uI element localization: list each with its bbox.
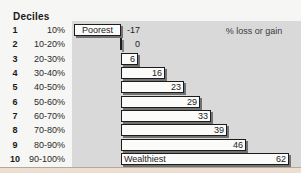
bar: 6 — [121, 53, 138, 65]
decile-range-label: 90-100% — [25, 154, 65, 165]
page-edge-strip — [0, 167, 301, 173]
decile-range-label: 70-80% — [25, 125, 65, 136]
bar-value-label: 23 — [171, 82, 181, 92]
bar: 33 — [121, 110, 211, 122]
chart-panel: % loss or gain Poorest-1706162329333946W… — [72, 21, 301, 167]
bar-value-label-outside: 0 — [116, 38, 140, 50]
bar-value-label-outside: -17 — [116, 24, 140, 36]
bar-category-text: Wealthiest — [124, 154, 166, 164]
bar-value-label: 6 — [130, 54, 135, 64]
decile-range-label: 30-40% — [25, 68, 65, 79]
decile-range-label: 20-30% — [25, 54, 65, 65]
bar-value-label: 33 — [198, 111, 208, 121]
bar-value-label: 29 — [187, 97, 197, 107]
decile-number: 5 — [7, 82, 23, 93]
bar-value-label: 62 — [276, 154, 286, 164]
value-axis-label: % loss or gain — [212, 26, 296, 36]
decile-range-label: 80-90% — [25, 140, 65, 151]
bar-value-label: 46 — [233, 140, 243, 150]
decile-number: 9 — [7, 140, 23, 151]
decile-range-label: 10% — [25, 25, 65, 36]
bar: 29 — [121, 96, 200, 108]
bar-value-label: 39 — [214, 125, 224, 135]
bar-value-label: 16 — [152, 68, 162, 78]
decile-number: 7 — [7, 111, 23, 122]
bar: Wealthiest62 — [121, 153, 289, 165]
bar: 23 — [121, 81, 184, 93]
decile-range-label: 60-70% — [25, 111, 65, 122]
bar: 39 — [121, 124, 227, 136]
decile-number: 1 — [7, 25, 23, 36]
decile-number: 4 — [7, 68, 23, 79]
chart-title: Deciles — [13, 11, 49, 22]
decile-number: 8 — [7, 125, 23, 136]
bar-negative: Poorest — [74, 24, 121, 36]
decile-range-label: 40-50% — [25, 82, 65, 93]
bar: 46 — [121, 139, 246, 151]
decile-bar-chart-figure: Deciles % loss or gain Poorest-170616232… — [0, 0, 301, 173]
decile-number: 3 — [7, 54, 23, 65]
decile-range-label: 10-20% — [25, 39, 65, 50]
bar: 16 — [121, 67, 165, 79]
decile-range-label: 50-60% — [25, 97, 65, 108]
decile-number: 2 — [7, 39, 23, 50]
decile-number: 6 — [7, 97, 23, 108]
decile-number: 10 — [7, 154, 23, 165]
bar-category-text: Poorest — [82, 25, 113, 35]
